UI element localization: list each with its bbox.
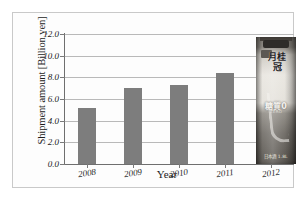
x-tick-label-2012: 2012 bbox=[261, 167, 280, 179]
y-tick-label: 8.0 bbox=[48, 72, 59, 82]
bar-2010 bbox=[170, 85, 188, 164]
y-tick-label: 2.0 bbox=[48, 137, 59, 147]
y-tick-label: 4.0 bbox=[48, 116, 59, 126]
y-tick-mark bbox=[60, 34, 65, 35]
y-tick-mark bbox=[60, 164, 65, 165]
y-tick-mark bbox=[60, 121, 65, 122]
bar-2009 bbox=[124, 88, 142, 164]
y-tick-mark bbox=[60, 77, 65, 78]
bar-2011 bbox=[216, 73, 234, 164]
y-axis-title: Shipment amount [Billion yen] bbox=[36, 6, 47, 156]
y-tick-mark bbox=[60, 142, 65, 143]
y-tick-label: 10.0 bbox=[43, 51, 59, 61]
y-tick-mark bbox=[60, 56, 65, 57]
y-tick-mark bbox=[60, 99, 65, 100]
sake-carton-photo: 月桂冠 糖質0 ZERO 日本酒 1.8L bbox=[256, 37, 296, 164]
gridline bbox=[64, 34, 294, 35]
y-tick-label: 6.0 bbox=[48, 94, 59, 104]
carton-shading bbox=[256, 37, 296, 164]
chart-figure: Shipment amount [Billion yen] 12.010.08.… bbox=[0, 0, 306, 202]
y-tick-label: 0.0 bbox=[48, 159, 59, 169]
figure-frame: Shipment amount [Billion yen] 12.010.08.… bbox=[12, 12, 294, 188]
bar-2008 bbox=[78, 108, 96, 164]
y-tick-label: 12.0 bbox=[43, 29, 59, 39]
x-axis-title: Year bbox=[76, 168, 258, 180]
